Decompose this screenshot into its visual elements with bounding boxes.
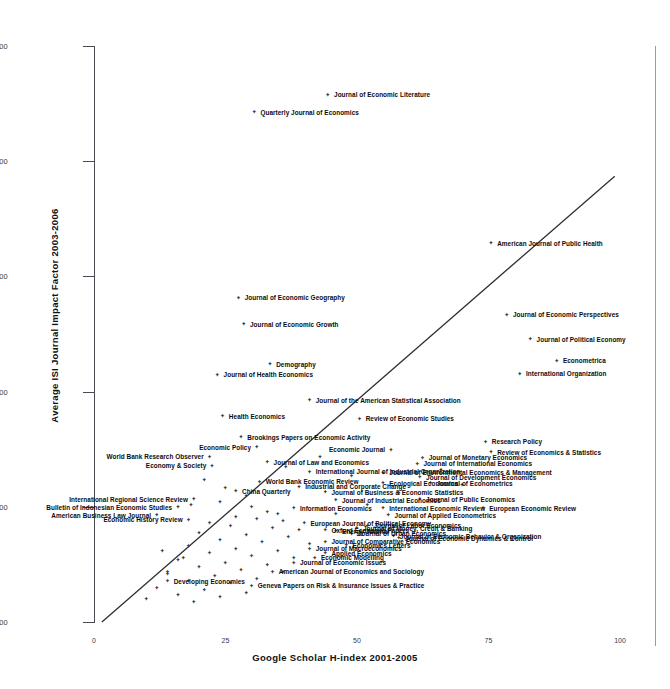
point-label: European Economic Review xyxy=(489,504,576,511)
diamond-marker-icon: ✦ xyxy=(207,549,212,556)
point-label: Journal of International Economics xyxy=(423,460,532,467)
diamond-marker-icon: ✦ xyxy=(307,545,312,552)
y-tick-mark xyxy=(83,392,94,393)
point-label: China Quarterly xyxy=(242,487,291,494)
diamond-marker-icon: ✦ xyxy=(286,533,291,540)
diamond-marker-icon: ✦ xyxy=(414,460,419,467)
diamond-marker-icon: ✦ xyxy=(265,458,270,465)
diamond-marker-icon: ✦ xyxy=(207,453,212,460)
diamond-marker-icon: ✦ xyxy=(244,589,249,596)
diamond-marker-icon: ✦ xyxy=(357,415,362,422)
point-label: Journal of Health Economics xyxy=(224,371,313,378)
diamond-marker-icon: ✦ xyxy=(280,517,285,524)
diamond-marker-icon: ✦ xyxy=(175,591,180,598)
diamond-marker-icon: ✦ xyxy=(249,552,254,559)
diamond-marker-icon: ✦ xyxy=(251,108,256,115)
diamond-marker-icon: ✦ xyxy=(259,538,264,545)
point-label: Developing Economies xyxy=(174,577,245,584)
diamond-marker-icon: ✦ xyxy=(265,508,270,515)
point-label: Journal of Economic Perspectives xyxy=(513,311,619,318)
diamond-marker-icon: ✦ xyxy=(228,522,233,529)
point-label: American Journal of Public Health xyxy=(497,239,603,246)
diamond-marker-icon: ✦ xyxy=(207,519,212,526)
y-tick-mark xyxy=(83,46,94,47)
diamond-marker-icon: ✦ xyxy=(238,566,243,573)
plot-right-border xyxy=(655,46,656,646)
diamond-marker-icon: ✦ xyxy=(215,371,220,378)
point-label: Journal of the American Statistical Asso… xyxy=(316,396,461,403)
y-tick-label: 2.00 xyxy=(0,388,8,397)
point-label: Health Economics xyxy=(229,412,285,419)
diamond-marker-icon: ✦ xyxy=(238,433,243,440)
diamond-marker-icon: ✦ xyxy=(296,526,301,533)
diamond-marker-icon: ✦ xyxy=(196,563,201,570)
diamond-marker-icon: ✦ xyxy=(191,495,196,502)
point-label: Information Economics xyxy=(300,504,372,511)
point-label: Journal of Economic Issues xyxy=(300,559,386,566)
diamond-marker-icon: ✦ xyxy=(249,503,254,510)
x-tick-label: 50 xyxy=(353,637,361,644)
diamond-marker-icon: ✦ xyxy=(196,529,201,536)
point-label: Bulletin of Indonesian Economic Studies xyxy=(46,503,172,510)
point-label: Journal of Economic Growth xyxy=(250,320,339,327)
point-label: Journal of Economic Geography xyxy=(245,294,345,301)
diamond-marker-icon: ✦ xyxy=(504,311,509,318)
diamond-marker-icon: ✦ xyxy=(217,593,222,600)
diamond-marker-icon: ✦ xyxy=(483,438,488,445)
diamond-marker-icon: ✦ xyxy=(165,568,170,575)
x-axis-label: Google Scholar H-index 2001-2005 xyxy=(0,652,670,663)
diamond-marker-icon: ✦ xyxy=(217,498,222,505)
diamond-marker-icon: ✦ xyxy=(159,547,164,554)
diamond-marker-icon: ✦ xyxy=(154,584,159,591)
diamond-marker-icon: ✦ xyxy=(209,462,214,469)
diamond-marker-icon: ✦ xyxy=(236,294,241,301)
point-label: Geneva Papers on Risk & Insurance Issues… xyxy=(258,582,425,589)
diamond-marker-icon: ✦ xyxy=(488,239,493,246)
point-label: Journal of Applied Econometrics xyxy=(395,511,496,518)
y-tick-label: 4.00 xyxy=(0,157,8,166)
point-label: Econometrica xyxy=(563,357,606,364)
y-tick-mark xyxy=(83,622,94,623)
diamond-marker-icon: ✦ xyxy=(333,496,338,503)
diamond-marker-icon: ✦ xyxy=(186,542,191,549)
diamond-marker-icon: ✦ xyxy=(244,531,249,538)
diamond-marker-icon: ✦ xyxy=(233,513,238,520)
diamond-marker-icon: ✦ xyxy=(220,412,225,419)
point-label: Economic Policy xyxy=(199,443,251,450)
point-label: Economic History Review xyxy=(103,516,182,523)
point-label: World Bank Research Observer xyxy=(107,453,204,460)
diamond-marker-icon: ✦ xyxy=(307,468,312,475)
y-tick-mark xyxy=(83,276,94,277)
diamond-marker-icon: ✦ xyxy=(191,598,196,605)
y-tick-label: 3.00 xyxy=(0,272,8,281)
diamond-marker-icon: ✦ xyxy=(528,335,533,342)
y-tick-label: 1.00 xyxy=(0,503,8,512)
diamond-marker-icon: ✦ xyxy=(257,478,262,485)
diamond-marker-icon: ✦ xyxy=(267,360,272,367)
y-tick-mark xyxy=(83,161,94,162)
diamond-marker-icon: ✦ xyxy=(275,547,280,554)
point-label: International Organization xyxy=(526,370,606,377)
diamond-marker-icon: ✦ xyxy=(388,446,393,453)
point-label: Journal of Political Economy xyxy=(537,335,626,342)
diamond-marker-icon: ✦ xyxy=(325,91,330,98)
diamond-marker-icon: ✦ xyxy=(233,545,238,552)
point-label: Journal of Econometrics xyxy=(437,479,513,486)
point-label: Journal of Law and Economics xyxy=(274,458,370,465)
point-label: Quarterly Journal of Economics xyxy=(260,108,358,115)
diamond-marker-icon: ✦ xyxy=(175,503,180,510)
diamond-marker-icon: ✦ xyxy=(307,396,312,403)
diamond-marker-icon: ✦ xyxy=(301,519,306,526)
y-tick-label: 5.00 xyxy=(0,42,8,51)
diamond-marker-icon: ✦ xyxy=(201,476,206,483)
diamond-marker-icon: ✦ xyxy=(254,443,259,450)
diamond-marker-icon: ✦ xyxy=(180,554,185,561)
diamond-marker-icon: ✦ xyxy=(223,559,228,566)
diamond-marker-icon: ✦ xyxy=(241,320,246,327)
x-tick-label: 100 xyxy=(614,637,626,644)
diamond-marker-icon: ✦ xyxy=(249,582,254,589)
point-label: Journal of Economic Literature xyxy=(334,91,430,98)
diamond-marker-icon: ✦ xyxy=(217,536,222,543)
diamond-marker-icon: ✦ xyxy=(386,511,391,518)
diamond-marker-icon: ✦ xyxy=(186,516,191,523)
